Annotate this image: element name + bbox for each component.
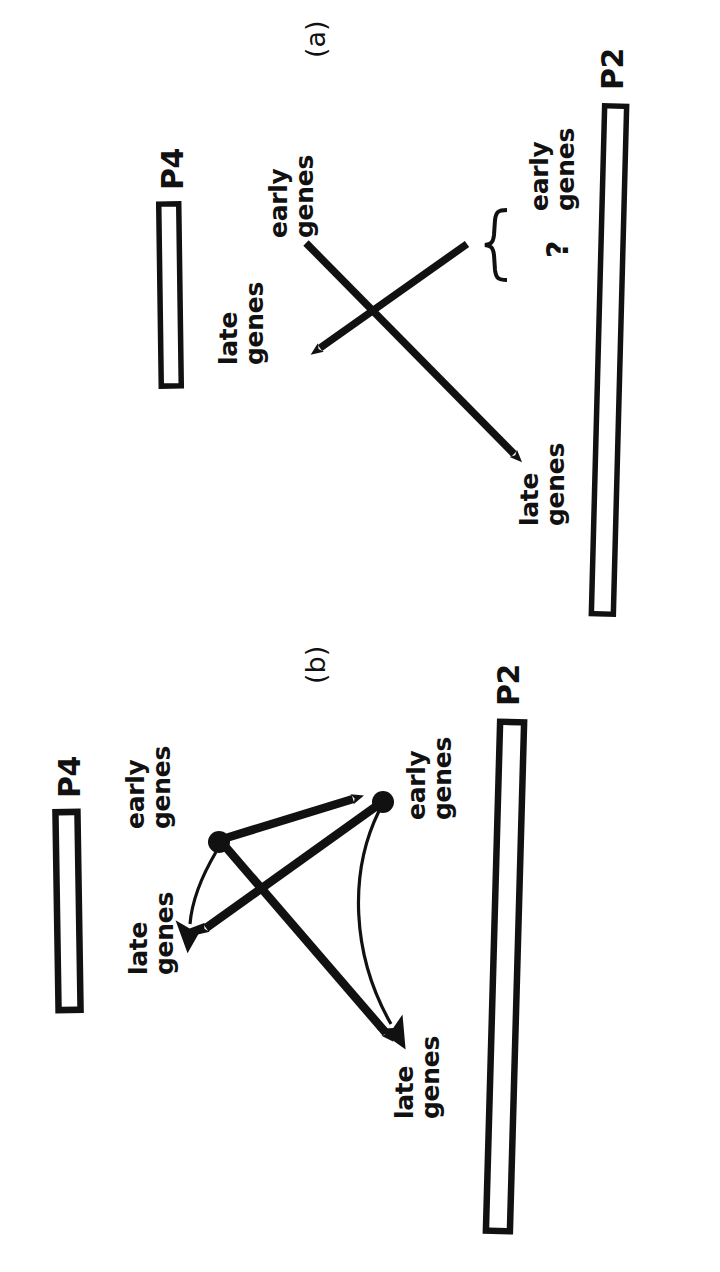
p2-genome-bar [486, 722, 524, 1231]
p4-bar-label: P4 [52, 756, 87, 798]
question-mark-annotation: ? [540, 241, 575, 258]
arrow-p4early-to-p2late [306, 243, 514, 454]
p2-early-genes-label: early genes [404, 737, 455, 820]
p2-late-genes-label: late genes [517, 443, 568, 526]
early-genes-brace [485, 210, 507, 280]
p4-genome-bar [159, 204, 182, 386]
arrow-p2early-to-p4late [206, 805, 378, 928]
p4-early-genes-label: early genes [123, 746, 174, 829]
figure-canvas: P4 P2 early genes late genes early genes… [0, 0, 720, 1272]
p2-early-genes-label: early genes [527, 128, 578, 211]
curved-arrow-p2early-to-p2late [358, 811, 391, 1024]
panel-a: P4 P2 early genes late genes early genes… [0, 0, 720, 636]
rotated-figure-wrapper: P4 P2 early genes late genes early genes… [0, 0, 720, 1272]
p2-bar-label: P2 [595, 48, 630, 90]
curved-arrow-p4early-to-p4late [190, 852, 216, 924]
panel-a-tag: (a) [300, 20, 331, 58]
p4-late-genes-label: late genes [126, 892, 177, 975]
p4-bar-label: P4 [155, 148, 190, 190]
panel-b: P4 P2 early genes late genes early genes… [0, 636, 720, 1272]
panel-a-graphics [0, 0, 720, 636]
p4-genome-bar [55, 812, 80, 1010]
p2-late-genes-label: late genes [392, 1036, 443, 1119]
panel-b-tag: (b) [300, 646, 331, 684]
p4-early-genes-label: early genes [266, 155, 317, 238]
p2-bar-label: P2 [491, 664, 526, 706]
p4-late-genes-label: late genes [216, 282, 267, 365]
p2-genome-bar [591, 106, 626, 614]
panel-b-graphics [0, 636, 720, 1272]
